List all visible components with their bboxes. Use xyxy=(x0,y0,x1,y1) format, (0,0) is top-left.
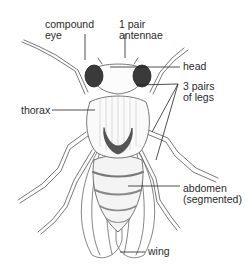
label-head: head xyxy=(183,61,206,72)
label-wing: wing xyxy=(148,246,170,257)
compound-eye-right xyxy=(133,65,151,87)
hind-leg-left xyxy=(38,150,95,234)
fly-anatomy-diagram: compound eye 1 pair antennae head 3 pair… xyxy=(0,0,252,272)
front-leg-left xyxy=(22,40,88,94)
leader-legs-2 xyxy=(152,84,178,132)
label-abdomen: abdomen (segmented) xyxy=(183,183,242,205)
middle-leg-right xyxy=(147,130,218,182)
abdomen-shape xyxy=(93,156,143,233)
leader-legs-3 xyxy=(156,84,178,160)
label-legs: 3 pairs of legs xyxy=(183,81,215,103)
middle-leg-left xyxy=(18,132,88,203)
label-thorax: thorax xyxy=(21,105,50,116)
label-compound-eye: compound eye xyxy=(45,19,94,41)
hind-leg-right xyxy=(139,150,180,230)
thorax-shape xyxy=(87,96,150,158)
label-antennae: 1 pair antennae xyxy=(119,19,163,41)
compound-eye-left xyxy=(85,65,103,87)
